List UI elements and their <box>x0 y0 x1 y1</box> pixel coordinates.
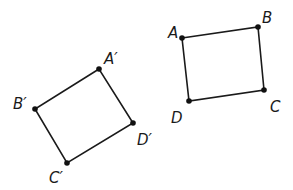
vertex-point <box>130 120 136 126</box>
vertex-label: D′ <box>137 131 153 149</box>
vertex-point <box>186 98 192 104</box>
diagram-svg: ABCD A′B′C′D′ <box>0 0 293 190</box>
vertex-label: B′ <box>13 95 27 113</box>
vertex-label: C <box>270 98 281 116</box>
vertex-label: D <box>171 109 183 127</box>
figure-abcd: ABCD <box>167 9 281 127</box>
vertex-label: A′ <box>103 50 118 68</box>
vertex-point <box>261 87 267 93</box>
figure-abcd-prime: A′B′C′D′ <box>13 50 153 187</box>
vertex-label: B <box>262 9 272 27</box>
diagram-canvas: ABCD A′B′C′D′ <box>0 0 293 190</box>
vertex-label: C′ <box>49 169 63 187</box>
vertex-label: A <box>167 24 178 42</box>
vertex-point <box>64 160 70 166</box>
vertex-point <box>96 66 102 72</box>
quadrilateral-abcd <box>182 27 264 101</box>
vertex-point <box>255 24 261 30</box>
vertex-point <box>179 35 185 41</box>
vertex-point <box>32 106 38 112</box>
quadrilateral-abcd-prime <box>35 69 133 163</box>
